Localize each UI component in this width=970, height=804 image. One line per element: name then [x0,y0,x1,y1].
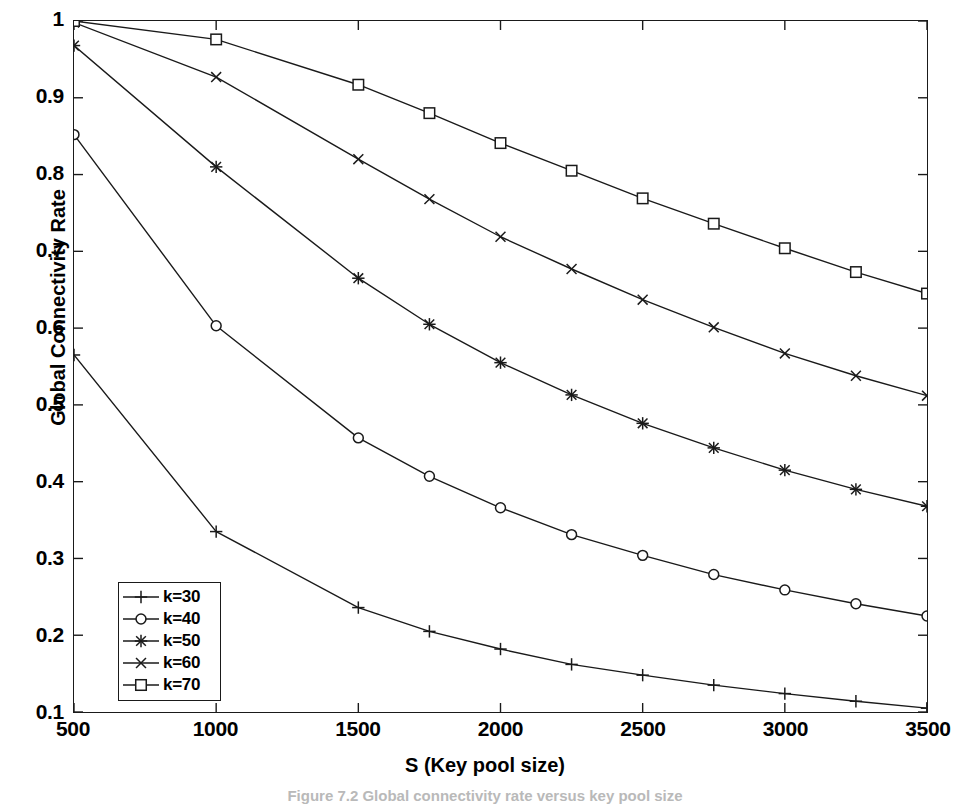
figure-caption: Figure 7.2 Global connectivity rate vers… [0,787,970,804]
asterisk-marker-icon [122,631,160,651]
x-axis-title: S (Key pool size) [0,754,970,777]
y-tick-label: 0.9 [0,84,64,108]
legend-label: k=40 [163,609,200,629]
legend-label: k=60 [163,653,200,673]
x-tick-label: 500 [13,717,133,741]
legend-label: k=50 [163,631,200,651]
x-tick-label: 2500 [583,717,703,741]
legend-label: k=30 [163,587,200,607]
series-k-60 [74,21,927,401]
plus-marker-icon [122,587,160,607]
circle-marker-icon [122,609,160,629]
x-tick-label: 1500 [298,717,418,741]
square-marker-icon [122,675,160,695]
cross-marker-icon [122,653,160,673]
x-tick-label: 3500 [868,717,970,741]
legend-item-k-30[interactable]: k=30 [119,586,220,608]
y-axis-title: Global Connectivity Rate [47,158,70,458]
x-tick-label: 1000 [156,717,276,741]
legend-item-k-70[interactable]: k=70 [119,674,220,696]
x-tick-label: 3000 [726,717,846,741]
legend-item-k-40[interactable]: k=40 [119,608,220,630]
legend-label: k=70 [163,675,200,695]
y-tick-label: 0.2 [0,623,64,647]
series-k-40 [74,130,927,621]
legend-item-k-50[interactable]: k=50 [119,630,220,652]
y-tick-label: 0.3 [0,546,64,570]
x-tick-label: 2000 [441,717,561,741]
series-k-50 [74,39,927,512]
legend-box[interactable]: k=30k=40k=50k=60k=70 [118,582,221,701]
series-k-70 [74,21,927,299]
legend-item-k-60[interactable]: k=60 [119,652,220,674]
y-tick-label: 1 [0,7,64,31]
y-tick-label: 0.4 [0,469,64,493]
